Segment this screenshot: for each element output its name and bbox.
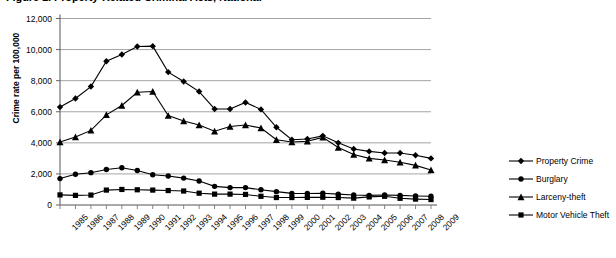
legend-item[interactable]: Property Crime bbox=[508, 152, 609, 170]
legend-item[interactable]: Burglary bbox=[508, 170, 609, 188]
legend-label: Property Crime bbox=[534, 156, 593, 166]
legend-item[interactable]: Motor Vehicle Theft bbox=[508, 206, 609, 224]
legend-marker-triangle-icon bbox=[508, 191, 534, 203]
legend-marker-circle-icon bbox=[508, 173, 534, 185]
legend-label: Motor Vehicle Theft bbox=[534, 210, 609, 220]
legend-label: Larceny-theft bbox=[534, 192, 586, 202]
legend-label: Burglary bbox=[534, 174, 568, 184]
chart-figure: Figure 1. Property-Related Criminal Acts… bbox=[0, 0, 616, 258]
legend-item[interactable]: Larceny-theft bbox=[508, 188, 609, 206]
series-property-crime bbox=[57, 43, 434, 162]
legend-marker-square-icon bbox=[508, 209, 534, 221]
legend-marker-diamond-icon bbox=[508, 155, 534, 167]
chart-legend: Property CrimeBurglaryLarceny-theftMotor… bbox=[508, 152, 609, 224]
